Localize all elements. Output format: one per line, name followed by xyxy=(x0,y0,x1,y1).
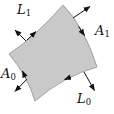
label-L0: L0 xyxy=(77,92,91,109)
label-L0-letter: L xyxy=(77,91,86,106)
label-L0-subscript: 0 xyxy=(86,97,91,107)
label-A0-letter: A xyxy=(1,66,10,81)
a1-outward-arrow xyxy=(73,7,90,19)
label-L1: L1 xyxy=(17,3,31,20)
label-A1-subscript: 1 xyxy=(104,29,109,39)
a0-outward-arrow xyxy=(15,79,27,92)
label-A0: A0 xyxy=(1,67,16,84)
l0-outward-arrow xyxy=(84,72,95,91)
label-L1-subscript: 1 xyxy=(26,8,31,18)
label-L1-letter: L xyxy=(17,2,26,17)
label-A1: A1 xyxy=(95,24,110,41)
label-A0-subscript: 0 xyxy=(10,72,15,82)
label-A1-letter: A xyxy=(95,23,104,38)
l1-outward-arrow xyxy=(15,30,26,41)
figure-canvas: L1 A1 A0 L0 xyxy=(0,0,114,114)
